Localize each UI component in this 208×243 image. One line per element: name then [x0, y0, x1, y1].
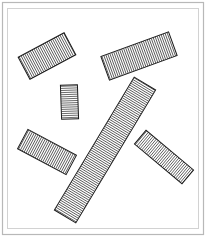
rect-right — [134, 130, 193, 184]
frame-outer-border — [3, 3, 204, 235]
hatched-rectangles-figure — [0, 0, 208, 243]
rect-top-right — [101, 32, 177, 80]
rect-small-center-hatch — [60, 86, 78, 118]
figure-root — [0, 0, 208, 243]
frame-inner-border — [8, 9, 199, 229]
rect-top-left — [18, 33, 76, 79]
rect-top-left-hatch — [19, 33, 75, 79]
rect-diagonal-large-hatch — [55, 78, 155, 222]
rect-bottom-left — [18, 129, 77, 174]
rect-right-hatch — [135, 131, 193, 184]
rect-top-right-hatch — [102, 33, 176, 80]
shapes-layer — [18, 32, 194, 223]
rect-bottom-left-hatch — [18, 130, 75, 174]
rect-small-center — [60, 85, 78, 120]
